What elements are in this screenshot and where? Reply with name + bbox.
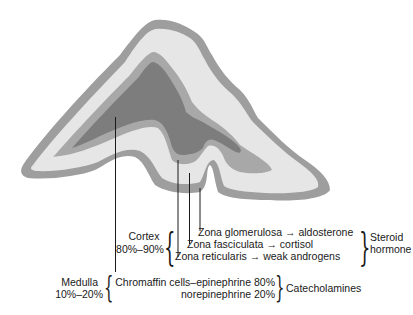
zone-reticularis-name: Zona reticularis bbox=[175, 250, 247, 262]
medulla-line1: Chromaffin cells–epinephrine 80% bbox=[110, 276, 275, 288]
catecholamines-label: Catecholamines bbox=[286, 282, 361, 294]
cortex-left-brace: { bbox=[164, 226, 175, 266]
steroid-hormone-label-line1: Steroid bbox=[370, 231, 403, 243]
steroid-hormone-label-line2: hormone bbox=[370, 243, 411, 255]
medulla-percent: 10%–20% bbox=[50, 288, 103, 300]
cortex-right-brace: } bbox=[359, 226, 370, 266]
cortex-label: Cortex bbox=[119, 230, 169, 242]
zone-fasciculata-name: Zona fasciculata bbox=[187, 238, 263, 250]
arrow-icon: → bbox=[266, 238, 277, 250]
zone-glomerulosa-name: Zona glomerulosa bbox=[198, 226, 282, 238]
medulla-line2: norepinephrine 20% bbox=[110, 288, 275, 300]
zone-reticularis: Zona reticularis → weak androgens bbox=[175, 250, 340, 262]
medulla-right-brace: } bbox=[275, 272, 285, 302]
zone-fasciculata-product: cortisol bbox=[280, 238, 313, 250]
medulla-label: Medulla bbox=[50, 276, 98, 288]
arrow-icon: → bbox=[250, 250, 261, 262]
arrow-icon: → bbox=[285, 226, 296, 238]
zone-glomerulosa: Zona glomerulosa → aldosterone bbox=[198, 226, 353, 238]
adrenal-gland-diagram bbox=[0, 0, 413, 315]
cortex-percent: 80%–90% bbox=[114, 243, 166, 255]
zone-reticularis-product: weak androgens bbox=[263, 250, 340, 262]
zone-glomerulosa-product: aldosterone bbox=[298, 226, 353, 238]
zone-fasciculata: Zona fasciculata → cortisol bbox=[187, 238, 313, 250]
